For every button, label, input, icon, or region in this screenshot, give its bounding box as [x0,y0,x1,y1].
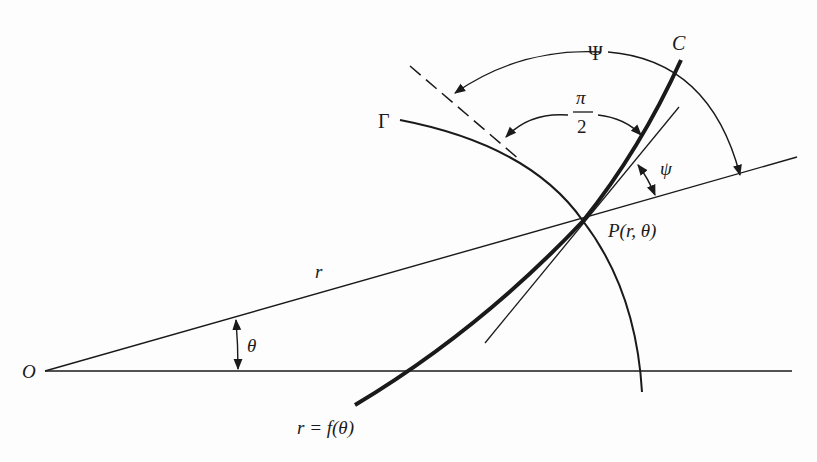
polar-tangent-diagram: O r θ P(r, θ) C Γ Ψ ψ π 2 r = f(θ) [0,0,817,462]
equation-label: r = f(θ) [297,417,354,439]
radius-label: r [315,261,323,282]
radius-line [45,157,797,371]
theta-label: θ [247,335,256,356]
pi-half-arc-left [506,115,568,137]
gamma-tangent-dashed [410,66,520,160]
small-psi-label: ψ [660,158,673,179]
point-label: P(r, θ) [607,220,656,242]
big-psi-label: Ψ [588,42,603,64]
origin-label: O [22,361,36,382]
curve-c-label: C [672,32,686,54]
pi-denominator: 2 [577,116,587,137]
small-psi-arrow [638,165,655,195]
pi-half-arc-right [598,115,641,135]
theta-arrow [236,320,238,369]
gamma-label: Γ [378,110,390,132]
pi-numerator: π [576,87,586,108]
